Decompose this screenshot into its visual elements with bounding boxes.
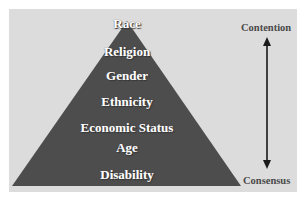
level-race: Race [113, 17, 140, 30]
scale-bottom-label: Consensus [243, 176, 290, 187]
level-disability: Disability [100, 168, 153, 181]
level-ethnicity: Ethnicity [101, 95, 152, 108]
level-age: Age [116, 141, 138, 154]
level-economic-status: Economic Status [81, 121, 174, 134]
level-religion: Religion [104, 45, 150, 58]
level-gender: Gender [106, 69, 148, 82]
scale-top-label: Contention [241, 23, 291, 34]
double-arrow-icon [263, 37, 271, 169]
